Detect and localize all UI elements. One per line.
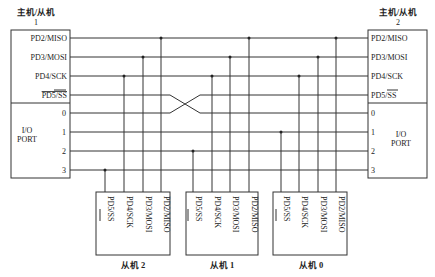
slave0-pin-ss: PD5/SS xyxy=(282,196,291,221)
junction-dot xyxy=(211,75,214,78)
junction-dot xyxy=(229,56,232,59)
junction-dot xyxy=(298,75,301,78)
master2-pin-sck: PD4/SCK xyxy=(371,72,403,81)
master1-io-label-1: I/O xyxy=(22,126,33,135)
master1-io-3: 3 xyxy=(62,166,66,175)
master2-pin-miso: PD2/MISO xyxy=(371,34,408,43)
slave2-label: 从机 2 xyxy=(121,260,145,270)
junction-dot xyxy=(104,169,107,172)
master1-title: 主机/从机 xyxy=(17,7,55,17)
junction-dot xyxy=(248,37,251,40)
slave0-pin-miso: PD2/MISO xyxy=(337,196,346,233)
bus-wires xyxy=(70,38,368,170)
spi-multi-master-diagram: 主机/从机 1 PD2/MISO PD3/MOSI PD4/SCK PD5/SS… xyxy=(0,0,435,277)
slave1-pin-mosi: PD3/MOSI xyxy=(231,196,240,233)
master1-block: 主机/从机 1 PD2/MISO PD3/MOSI PD4/SCK PD5/SS… xyxy=(11,7,70,178)
junction-dot xyxy=(192,150,195,153)
master1-pin-ss: PD5/SS xyxy=(42,91,67,100)
slave2-pin-sck: PD4/SCK xyxy=(125,196,134,228)
slave0-pin-mosi: PD3/MOSI xyxy=(319,196,328,233)
junction-dot xyxy=(280,131,283,134)
master1-pin-sck: PD4/SCK xyxy=(35,72,67,81)
slave1-pin-sck: PD4/SCK xyxy=(213,196,222,228)
slave2-pin-mosi: PD3/MOSI xyxy=(144,196,153,233)
wire-ss1-to-io0-2 xyxy=(70,95,368,113)
master1-io-1: 1 xyxy=(62,128,66,137)
master2-io-3: 3 xyxy=(371,166,375,175)
junction-dot xyxy=(335,37,338,40)
junction-dot xyxy=(142,56,145,59)
slave1-label: 从机 1 xyxy=(210,260,234,270)
slave0-block: PD5/SS PD4/SCK PD3/MOSI PD2/MISO 从机 0 xyxy=(273,192,347,270)
slave1-pin-ss: PD5/SS xyxy=(194,196,203,221)
master2-io-label-2: PORT xyxy=(391,139,411,148)
master2-io-0: 0 xyxy=(371,109,375,118)
master1-io-label-2: PORT xyxy=(17,135,37,144)
slave0-pin-sck: PD4/SCK xyxy=(300,196,309,228)
master1-io-2: 2 xyxy=(62,147,66,156)
slave2-pin-miso: PD2/MISO xyxy=(162,196,171,233)
master2-io-2: 2 xyxy=(371,147,375,156)
slave2-block: PD5/SS PD4/SCK PD3/MOSI PD2/MISO 从机 2 xyxy=(96,192,171,270)
slave1-pin-miso: PD2/MISO xyxy=(250,196,259,233)
master2-block: 主机/从机 2 PD2/MISO PD3/MOSI PD4/SCK PD5/SS… xyxy=(368,7,427,178)
master1-number: 1 xyxy=(34,18,38,27)
master2-title: 主机/从机 xyxy=(379,7,417,17)
master1-pin-miso: PD2/MISO xyxy=(31,34,68,43)
junction-dot xyxy=(317,56,320,59)
slave0-label: 从机 0 xyxy=(299,260,323,270)
master2-io-label-1: I/O xyxy=(396,130,407,139)
master2-number: 2 xyxy=(396,18,400,27)
junction-dot xyxy=(160,37,163,40)
master2-io-1: 1 xyxy=(371,128,375,137)
slave2-pin-ss: PD5/SS xyxy=(106,196,115,221)
master2-pin-mosi: PD3/MOSI xyxy=(371,53,408,62)
master1-pin-mosi: PD3/MOSI xyxy=(31,53,68,62)
master2-pin-ss: PD5/SS xyxy=(371,91,396,100)
master1-io-0: 0 xyxy=(62,109,66,118)
slave1-block: PD5/SS PD4/SCK PD3/MOSI PD2/MISO 从机 1 xyxy=(186,192,259,270)
junction-dot xyxy=(123,75,126,78)
wire-io0-1-to-ss2 xyxy=(70,95,368,113)
slave-wires xyxy=(105,38,336,192)
